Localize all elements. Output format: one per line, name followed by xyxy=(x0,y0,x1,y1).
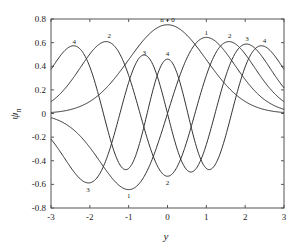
y-tick-label: -0.2 xyxy=(32,132,46,142)
x-tick-label: 0 xyxy=(165,212,170,222)
curve-label: 3 xyxy=(142,49,146,57)
curve-label: n = 0 xyxy=(160,16,175,24)
curve-label: 2 xyxy=(228,32,232,40)
curve-label: 4 xyxy=(166,50,170,58)
curve-label: 1 xyxy=(127,192,131,200)
y-tick-label: 0.6 xyxy=(35,38,47,48)
y-tick-label: -0.6 xyxy=(32,179,47,189)
y-tick-label: 0.8 xyxy=(35,14,47,24)
x-tick-label: 1 xyxy=(204,212,209,222)
x-tick-label: -1 xyxy=(125,212,133,222)
y-tick-label: 0.4 xyxy=(35,61,47,71)
y-tick-label: -0.4 xyxy=(32,156,47,166)
x-tick-label: -2 xyxy=(86,212,94,222)
curve-label: 4 xyxy=(73,38,77,46)
curve-label: 3 xyxy=(245,35,249,43)
y-tick-labels: -0.8-0.6-0.4-0.200.20.40.60.8 xyxy=(32,14,47,213)
curve-label: 1 xyxy=(205,29,209,37)
hermite-functions-chart: -3-2-10123 -0.8-0.6-0.4-0.200.20.40.60.8… xyxy=(0,0,303,249)
x-tick-label: -3 xyxy=(47,212,55,222)
x-tick-labels: -3-2-10123 xyxy=(47,212,287,222)
x-tick-label: 2 xyxy=(243,212,248,222)
y-tick-label: 0.2 xyxy=(35,85,46,95)
series-line-n4 xyxy=(51,46,284,170)
x-tick-label: 3 xyxy=(282,212,287,222)
y-tick-label: 0 xyxy=(42,109,47,119)
y-tick-label: -0.8 xyxy=(32,203,47,213)
curve-label: 2 xyxy=(166,179,170,187)
curve-label: 3 xyxy=(86,186,90,194)
series-line-n0 xyxy=(51,25,284,113)
series-line-n2 xyxy=(51,42,284,177)
curve-label: 4 xyxy=(263,37,267,45)
y-axis-title: ψn xyxy=(8,109,23,120)
curve-label: 2 xyxy=(108,32,112,40)
x-axis-title: y xyxy=(163,230,169,242)
y-axis-title-sub: n xyxy=(14,109,23,113)
series-line-n3 xyxy=(51,44,284,183)
